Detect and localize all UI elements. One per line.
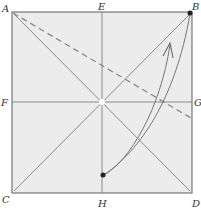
label-b: B — [191, 1, 199, 12]
fold-diagram: A B C D E F G H — [0, 0, 201, 211]
label-g: G — [194, 97, 201, 108]
center-point — [99, 99, 105, 105]
label-f: F — [0, 97, 9, 108]
label-a: A — [1, 3, 9, 14]
label-d: D — [191, 198, 200, 209]
label-e: E — [97, 1, 106, 12]
point-start-dot — [101, 173, 106, 178]
label-c: C — [2, 194, 10, 205]
label-h: H — [97, 198, 107, 209]
